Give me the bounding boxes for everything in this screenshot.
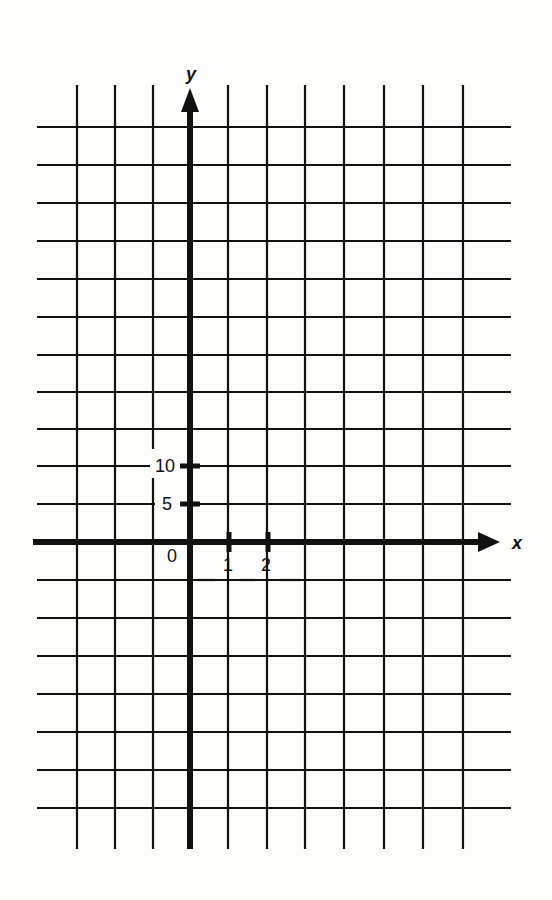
origin-label: 0 bbox=[167, 546, 177, 566]
x-tick-label-1: 1 bbox=[223, 555, 233, 575]
x-tick-label-2: 2 bbox=[261, 555, 271, 575]
y-tick-label-5: 5 bbox=[162, 494, 172, 514]
x-axis-label: x bbox=[511, 533, 523, 553]
axis-labels-layer: y x 0 1 2 5 10 bbox=[0, 0, 552, 900]
y-axis-label: y bbox=[185, 64, 197, 84]
y-tick-label-10: 10 bbox=[155, 456, 175, 476]
